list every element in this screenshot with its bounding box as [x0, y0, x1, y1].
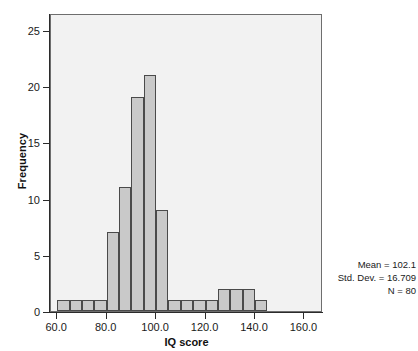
x-axis-tick-label: 100.0	[132, 321, 178, 333]
histogram-bar	[131, 97, 143, 311]
histogram-bar	[94, 300, 106, 311]
histogram-bar	[218, 289, 230, 311]
y-axis-tick	[43, 31, 49, 32]
y-axis-tick	[43, 256, 49, 257]
y-axis-tick	[43, 312, 49, 313]
histogram-bar	[144, 75, 156, 311]
histogram-bar	[70, 300, 82, 311]
bars-container	[51, 15, 321, 311]
histogram-bar	[255, 300, 267, 311]
y-axis-tick-label: 25	[0, 26, 40, 36]
histogram-bar	[243, 289, 255, 311]
x-axis-tick	[56, 313, 57, 319]
y-axis-tick	[43, 143, 49, 144]
x-axis-tick-label: 80.0	[83, 321, 129, 333]
histogram-bar	[156, 210, 168, 311]
x-axis-tick	[155, 313, 156, 319]
x-axis-tick	[254, 313, 255, 319]
histogram-bar	[168, 300, 180, 311]
statistics-line: N = 80	[330, 284, 416, 297]
x-axis-line	[50, 312, 323, 313]
histogram-bar	[107, 232, 119, 311]
histogram-bar	[119, 187, 131, 311]
statistics-annotation: Mean = 102.1Std. Dev. = 16.709N = 80	[330, 258, 416, 297]
x-axis-tick-label: 160.0	[280, 321, 326, 333]
x-axis-tick-label: 140.0	[231, 321, 277, 333]
x-axis-tick	[106, 313, 107, 319]
x-axis-tick	[205, 313, 206, 319]
histogram-bar	[181, 300, 193, 311]
histogram-bar	[206, 300, 218, 311]
y-axis-tick	[43, 200, 49, 201]
x-axis-tick	[303, 313, 304, 319]
histogram-bar	[57, 300, 69, 311]
y-axis-line	[49, 14, 50, 313]
y-axis-tick-label: 5	[0, 251, 40, 261]
y-axis-tick-label: 0	[0, 307, 40, 317]
statistics-line: Mean = 102.1	[330, 258, 416, 271]
y-axis-tick	[43, 87, 49, 88]
x-axis-tick-label: 120.0	[182, 321, 228, 333]
histogram-bar	[193, 300, 205, 311]
y-axis-tick-label: 20	[0, 82, 40, 92]
y-axis-title: Frequency	[16, 106, 28, 216]
histogram-bar	[82, 300, 94, 311]
plot-area	[50, 14, 322, 312]
histogram-bar	[230, 289, 242, 311]
statistics-line: Std. Dev. = 16.709	[330, 271, 416, 284]
x-axis-tick-label: 60.0	[33, 321, 79, 333]
histogram-figure: 0510152025 Frequency 60.080.0100.0120.01…	[0, 0, 418, 351]
x-axis-title: IQ score	[50, 336, 323, 348]
